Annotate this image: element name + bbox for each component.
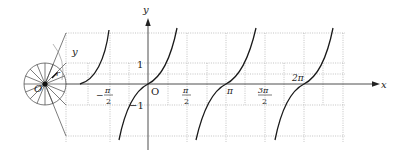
x-axis-arrow-icon bbox=[372, 81, 380, 86]
y-tick-1: 1 bbox=[137, 59, 143, 70]
x-tick-neg-sign: − bbox=[96, 90, 104, 100]
x-tick-neg-pi-over-2-num: π bbox=[104, 86, 111, 95]
x-tick-pi-over-2-num: π bbox=[182, 86, 189, 95]
y-axis-label: y bbox=[142, 4, 149, 15]
y-axis-arrow-icon bbox=[145, 18, 150, 26]
x-tick-pi-over-2-den: 2 bbox=[184, 97, 189, 106]
origin-label: O bbox=[151, 86, 159, 97]
x-tick-2pi: 2π bbox=[291, 73, 305, 83]
tangent-graph-diagram: y x O O r y 1 −1 − π 2 π 2 π 3π 2 2π bbox=[0, 0, 402, 156]
axes bbox=[66, 24, 374, 150]
y-tick-neg-1: −1 bbox=[129, 100, 144, 111]
radius-label: r bbox=[56, 69, 61, 78]
x-tick-3pi-over-2-den: 2 bbox=[262, 97, 267, 106]
x-tick-pi: π bbox=[226, 86, 234, 96]
x-tick-neg-pi-over-2-den: 2 bbox=[106, 97, 111, 106]
x-axis-label: x bbox=[381, 79, 387, 90]
circle-center-label: O bbox=[34, 83, 42, 94]
angle-label: y bbox=[71, 46, 78, 57]
center-point bbox=[42, 81, 47, 86]
x-tick-3pi-over-2-num: 3π bbox=[258, 86, 269, 95]
